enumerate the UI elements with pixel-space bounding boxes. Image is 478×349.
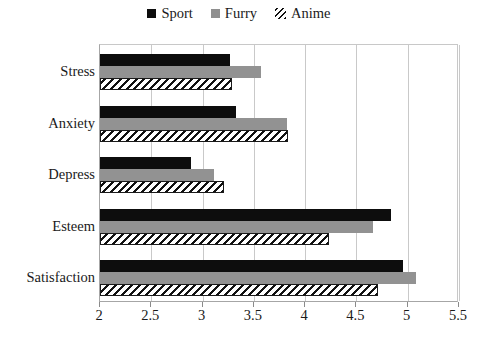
bar-sport-depress <box>100 157 191 169</box>
y-axis-labels: StressAnxietyDepressEsteemSatisfaction <box>0 44 95 302</box>
bar-anime-depress <box>100 181 224 193</box>
plot-area <box>99 44 458 302</box>
x-axis-label-4: 4 <box>301 308 308 323</box>
legend-item-anime: Anime <box>275 6 330 21</box>
bar-sport-satisfaction <box>100 260 403 272</box>
bar-group-stress <box>100 45 457 97</box>
bar-group-satisfaction <box>100 251 457 303</box>
x-axis-label-2: 2 <box>95 308 102 323</box>
bar-sport-esteem <box>100 209 391 221</box>
filled-square-black-icon <box>147 9 156 18</box>
x-axis-labels: 22.533.544.555.5 <box>0 308 478 332</box>
bar-furry-esteem <box>100 221 373 233</box>
legend-label-furry: Furry <box>225 6 257 21</box>
bar-sport-anxiety <box>100 106 236 118</box>
bar-anime-stress <box>100 78 232 90</box>
bar-anime-anxiety <box>100 130 288 142</box>
bar-sport-stress <box>100 54 230 66</box>
filled-square-gray-icon <box>211 9 220 18</box>
y-axis-label-esteem: Esteem <box>3 219 95 234</box>
hatched-square-icon <box>275 8 286 19</box>
y-axis-label-satisfaction: Satisfaction <box>3 270 95 285</box>
x-axis-label-3: 3 <box>198 308 205 323</box>
bar-group-anxiety <box>100 97 457 149</box>
x-axis-label-4-5: 4.5 <box>346 308 364 323</box>
bar-furry-depress <box>100 169 214 181</box>
y-axis-label-anxiety: Anxiety <box>3 116 95 131</box>
bar-group-esteem <box>100 200 457 252</box>
x-axis-label-5: 5 <box>403 308 410 323</box>
legend-label-anime: Anime <box>291 6 330 21</box>
bar-chart: Sport Furry Anime StressAnxietyDepressEs… <box>0 0 478 349</box>
legend-item-sport: Sport <box>147 6 192 21</box>
x-axis-label-3-5: 3.5 <box>244 308 262 323</box>
bar-anime-satisfaction <box>100 284 378 296</box>
legend-item-furry: Furry <box>211 6 257 21</box>
legend-label-sport: Sport <box>161 6 192 21</box>
bar-furry-satisfaction <box>100 272 416 284</box>
bar-furry-anxiety <box>100 118 287 130</box>
x-axis-label-2-5: 2.5 <box>141 308 159 323</box>
y-axis-label-stress: Stress <box>3 64 95 79</box>
bar-group-depress <box>100 148 457 200</box>
bar-furry-stress <box>100 66 261 78</box>
x-axis-label-5-5: 5.5 <box>449 308 467 323</box>
y-axis-label-depress: Depress <box>3 167 95 182</box>
chart-legend: Sport Furry Anime <box>0 6 478 21</box>
gridline <box>459 45 460 301</box>
bar-anime-esteem <box>100 233 329 245</box>
